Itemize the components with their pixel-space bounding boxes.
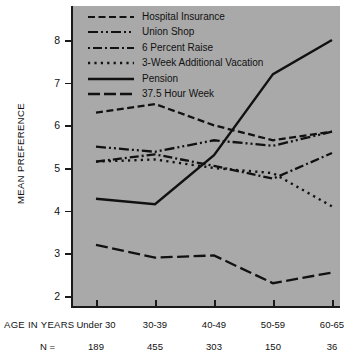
- x-axis-line: [71, 306, 340, 308]
- y-tick-6: [65, 125, 72, 127]
- dash-dot-line-icon: [88, 42, 136, 54]
- legend-item-37-5-hour-week[interactable]: 37.5 Hour Week: [88, 87, 328, 102]
- legend-item-3-week-additional-vacation[interactable]: 3-Week Additional Vacation: [88, 56, 328, 71]
- n-row-label: N =: [40, 341, 55, 352]
- y-tick-label-7: 7: [44, 78, 60, 88]
- chart-legend: Hospital Insurance Union Shop 6 Percent …: [88, 9, 328, 102]
- n-value-0: 189: [64, 341, 128, 352]
- n-value-1: 455: [123, 341, 187, 352]
- dashed-line-icon: [88, 11, 136, 23]
- legend-label-hospital-insurance: Hospital Insurance: [142, 11, 225, 23]
- y-tick-label-3: 3: [44, 248, 60, 258]
- y-tick-label-8: 8: [44, 35, 60, 45]
- x-tick-2: [214, 300, 216, 308]
- y-axis-line: [71, 6, 73, 307]
- x-tick-1: [155, 300, 157, 308]
- x-tick-label-1: 30-39: [123, 319, 187, 330]
- y-tick-4: [65, 211, 72, 213]
- n-value-4: 36: [300, 341, 357, 352]
- chart-figure: 8 7 6 5 4 3 2 MEAN PREFERENCE Hospital I…: [0, 0, 357, 361]
- y-tick-3: [65, 253, 72, 255]
- legend-item-6-percent-raise[interactable]: 6 Percent Raise: [88, 40, 328, 55]
- y-tick-label-4: 4: [44, 206, 60, 216]
- legend-label-37-5-hour-week: 37.5 Hour Week: [142, 88, 214, 100]
- x-tick-label-2: 40-49: [182, 319, 246, 330]
- dash-dot-dot-line-icon: [88, 26, 136, 38]
- legend-label-pension: Pension: [142, 73, 178, 85]
- x-tick-label-0: Under 30: [64, 319, 128, 330]
- n-value-2: 303: [182, 341, 246, 352]
- y-tick-label-5: 5: [44, 163, 60, 173]
- long-dash-line-icon: [88, 88, 136, 100]
- y-tick-label-6: 6: [44, 120, 60, 130]
- y-tick-2: [65, 296, 72, 298]
- n-value-3: 150: [241, 341, 305, 352]
- legend-label-6-percent-raise: 6 Percent Raise: [142, 42, 213, 54]
- x-tick-4: [332, 300, 334, 308]
- legend-item-hospital-insurance[interactable]: Hospital Insurance: [88, 9, 328, 24]
- dotted-line-icon: [88, 57, 136, 69]
- legend-label-3-week-additional-vacation: 3-Week Additional Vacation: [142, 57, 263, 69]
- y-tick-8: [65, 40, 72, 42]
- y-axis-title: MEAN PREFERENCE: [15, 94, 26, 214]
- x-tick-label-3: 50-59: [241, 319, 305, 330]
- legend-item-pension[interactable]: Pension: [88, 71, 328, 86]
- y-tick-5: [65, 168, 72, 170]
- x-tick-0: [96, 300, 98, 308]
- legend-item-union-shop[interactable]: Union Shop: [88, 25, 328, 40]
- legend-label-union-shop: Union Shop: [142, 26, 194, 38]
- y-tick-7: [65, 83, 72, 85]
- y-tick-label-2: 2: [44, 291, 60, 301]
- x-tick-3: [273, 300, 275, 308]
- x-tick-label-4: 60-65: [300, 319, 357, 330]
- solid-line-icon: [88, 73, 136, 85]
